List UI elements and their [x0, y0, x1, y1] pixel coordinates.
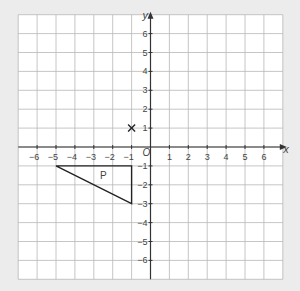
x-tick-label: 3	[205, 152, 210, 162]
x-tick-label: −5	[48, 152, 58, 162]
x-tick-label: −1	[123, 152, 133, 162]
y-tick-label: −1	[137, 161, 147, 171]
x-tick-label: 2	[186, 152, 191, 162]
y-tick-label: 2	[142, 104, 147, 114]
x-tick-label: −6	[29, 152, 39, 162]
y-tick-label: −4	[137, 218, 147, 228]
x-tick-label: 5	[242, 152, 247, 162]
y-tick-label: −3	[137, 199, 147, 209]
y-tick-label: 1	[142, 123, 147, 133]
y-tick-label: −5	[137, 237, 147, 247]
origin-label: O	[143, 147, 151, 158]
x-tick-label: −3	[86, 152, 96, 162]
x-tick-label: −4	[67, 152, 77, 162]
y-tick-label: −2	[137, 180, 147, 190]
y-tick-label: −6	[137, 255, 147, 265]
y-tick-label: 3	[142, 85, 147, 95]
x-tick-label: 1	[167, 152, 172, 162]
x-tick-label: 6	[261, 152, 266, 162]
y-tick-label: 4	[142, 66, 147, 76]
x-tick-label: −2	[105, 152, 115, 162]
x-axis-label: x	[282, 143, 289, 155]
x-tick-label: 4	[224, 152, 229, 162]
shape-label-p: P	[100, 170, 107, 181]
y-tick-label: 5	[142, 48, 147, 58]
coordinate-grid: xyO−6−5−4−3−2−1123456−6−5−4−3−2−1123456P	[0, 0, 300, 291]
y-tick-label: 6	[142, 29, 147, 39]
